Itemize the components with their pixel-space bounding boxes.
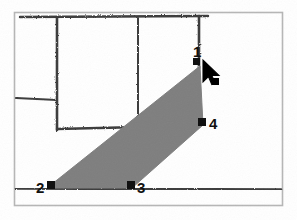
scan-grain-overlay: [0, 0, 297, 220]
vertex-marker-4[interactable]: [198, 118, 206, 126]
drawing-canvas[interactable]: [0, 0, 297, 220]
vertex-marker-3[interactable]: [127, 181, 135, 189]
vertex-label-4: 4: [209, 116, 217, 131]
vertex-label-1: 1: [193, 44, 201, 59]
sketch-svg: [0, 0, 297, 220]
vertex-label-2: 2: [36, 180, 44, 195]
vertex-marker-2[interactable]: [47, 181, 55, 189]
screenshot-root: 1 2 3 4: [0, 0, 297, 220]
vertex-label-3: 3: [137, 180, 145, 195]
